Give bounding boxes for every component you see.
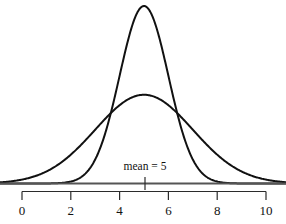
axis-tick-label: 2 (68, 203, 75, 218)
plot-canvas: 0246810 mean = 5 (0, 0, 286, 224)
axis-tick-label: 0 (19, 203, 26, 218)
axis-tick-label: 4 (116, 203, 123, 218)
normal-distribution-figure: 0246810 mean = 5 (0, 0, 286, 224)
axis-tick-labels: 0246810 (19, 203, 273, 218)
axis-ticks (22, 192, 266, 201)
axis-tick-label: 10 (260, 203, 273, 218)
axis-tick-label: 6 (165, 203, 172, 218)
mean-annotation-label: mean = 5 (124, 160, 167, 172)
axis-tick-label: 8 (214, 203, 221, 218)
